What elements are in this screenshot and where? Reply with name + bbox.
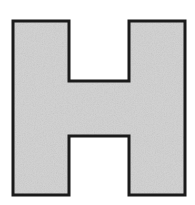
letter-h-shape (0, 0, 195, 205)
image-canvas: Outlined capital letter H filled with li… (0, 0, 195, 205)
